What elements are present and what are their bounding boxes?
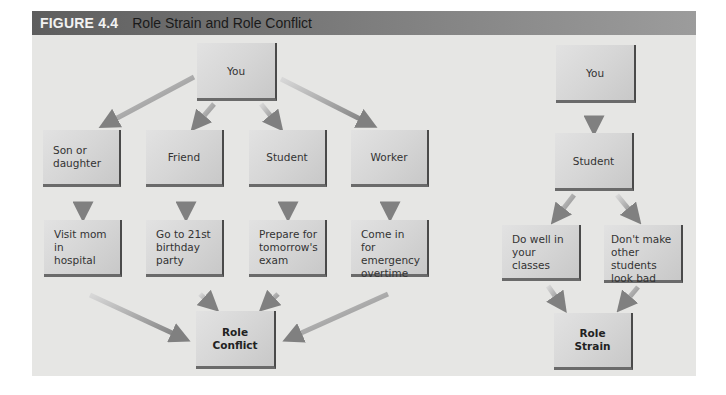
arrow-you-to-worker [281, 79, 370, 124]
arrow-you-to-son [106, 77, 194, 124]
role-student-box: Student [249, 130, 327, 187]
box-label: You [556, 66, 634, 79]
arrow-student-to-others [617, 195, 636, 218]
arrow-party-to-conflict [200, 294, 213, 306]
role-strain-student-box: Student [555, 133, 634, 191]
box-label: Come in for emergency overtime [351, 228, 427, 280]
demand-exam-box: Prepare for tomorrow's exam [249, 220, 327, 277]
arrow-you-to-friend [196, 104, 214, 125]
box-label: Role Strain [554, 327, 631, 353]
arrow-visit-to-conflict [90, 295, 183, 338]
box-label: Worker [351, 151, 427, 164]
demand-dont-make-others-look-bad-box: Don't make other students look bad [604, 225, 683, 283]
demand-overtime-box: Come in for emergency overtime [351, 220, 429, 277]
box-label: Do well in your classes [502, 232, 579, 271]
role-friend-box: Friend [146, 130, 224, 187]
arrow-classes-to-strain [548, 286, 562, 306]
arrow-exam-to-conflict [265, 294, 278, 306]
demand-birthday-party-box: Go to 21st birthday party [146, 220, 224, 277]
box-label: Role Conflict [196, 326, 274, 352]
arrow-others-to-strain [622, 287, 638, 306]
arrow-overtime-to-conflict [290, 294, 388, 338]
box-label: Prepare for tomorrow's exam [249, 228, 325, 267]
box-label: Son or daughter [43, 144, 119, 170]
role-conflict-result-box: Role Conflict [196, 311, 276, 369]
demand-visit-mom-box: Visit mom in hospital [44, 220, 122, 277]
box-label: Go to 21st birthday party [146, 228, 222, 267]
box-label: Visit mom in hospital [44, 228, 120, 267]
box-label: Friend [146, 151, 222, 164]
box-label: Student [249, 151, 325, 164]
role-conflict-you-box: You [197, 43, 277, 101]
box-label: Student [555, 154, 632, 167]
role-strain-result-box: Role Strain [554, 313, 633, 370]
arrow-student-to-classes [556, 195, 574, 218]
role-worker-box: Worker [351, 130, 429, 187]
role-son-daughter-box: Son or daughter [43, 130, 121, 187]
demand-do-well-box: Do well in your classes [502, 225, 581, 281]
box-label: You [197, 64, 275, 77]
box-label: Don't make other students look bad [604, 233, 681, 285]
arrow-you-to-student [261, 104, 278, 125]
role-strain-you-box: You [556, 45, 636, 103]
